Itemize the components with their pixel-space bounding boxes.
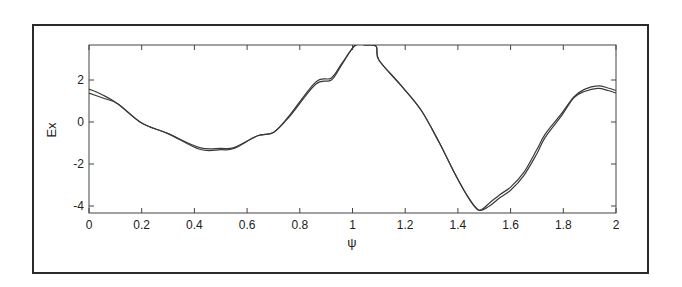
axis-ticks: 00.20.40.60.811.21.41.61.8220-2-4	[73, 45, 619, 232]
y-tick-label: -4	[73, 199, 84, 213]
x-tick-label: 1.2	[397, 218, 414, 232]
line-chart: 00.20.40.60.811.21.41.61.8220-2-4 ψ Ex	[0, 0, 682, 287]
y-axis-label: Ex	[44, 122, 59, 138]
x-tick-label: 1.6	[502, 218, 519, 232]
series-line-curve-1	[89, 44, 616, 210]
series-line-curve-2	[89, 44, 616, 211]
x-tick-label: 0	[86, 218, 93, 232]
x-tick-label: 0.2	[133, 218, 150, 232]
data-series	[89, 44, 616, 211]
x-axis-label: ψ	[347, 235, 356, 250]
x-tick-label: 2	[613, 218, 620, 232]
y-tick-label: 2	[77, 73, 84, 87]
plot-area	[89, 45, 616, 213]
y-tick-label: -2	[73, 157, 84, 171]
x-tick-label: 1.8	[555, 218, 572, 232]
x-tick-label: 1.4	[450, 218, 467, 232]
x-tick-label: 1	[349, 218, 356, 232]
x-tick-label: 0.6	[239, 218, 256, 232]
y-tick-label: 0	[77, 115, 84, 129]
x-tick-label: 0.8	[291, 218, 308, 232]
x-tick-label: 0.4	[186, 218, 203, 232]
